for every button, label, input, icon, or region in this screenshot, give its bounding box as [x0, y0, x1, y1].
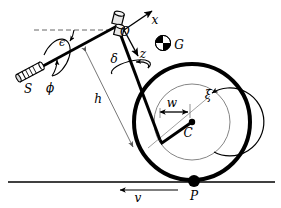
cylindrical-grip	[15, 61, 45, 82]
label-point-S: S	[24, 82, 32, 96]
dimension-line-h	[86, 52, 133, 147]
center-of-mass-symbol	[155, 35, 170, 50]
label-angle-delta: δ	[110, 52, 117, 66]
label-angle-phi: ϕ	[46, 81, 54, 95]
label-velocity-v: v	[135, 191, 142, 205]
angle-arc-epsilon	[70, 30, 74, 41]
label-length-h: h	[94, 92, 102, 106]
handle-rod	[32, 26, 117, 72]
label-angle-epsilon: ϵ	[59, 36, 65, 49]
label-axis-x: x	[152, 13, 159, 27]
label-point-C: C	[183, 126, 192, 140]
label-length-w: w	[167, 96, 178, 110]
kinematics-figure: O x z G S C P ϵ ϕ δ ξ h w v	[0, 0, 281, 208]
wheel-center-dot	[189, 119, 195, 125]
diagram-canvas: O x z G S C P ϵ ϕ δ ξ h w v	[0, 0, 281, 208]
contact-point-dot	[188, 175, 200, 187]
label-axis-z: z	[139, 47, 147, 61]
label-point-O: O	[120, 25, 130, 39]
label-point-P: P	[189, 189, 199, 203]
label-point-G: G	[174, 38, 184, 52]
